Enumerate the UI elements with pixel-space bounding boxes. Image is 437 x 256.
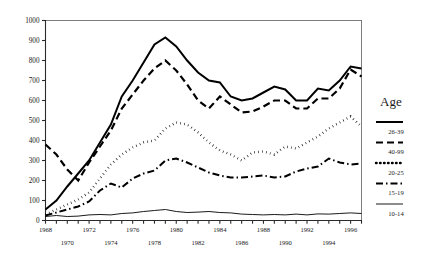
series-line-26-39 bbox=[46, 38, 362, 210]
y-tick-label: 800 bbox=[29, 57, 40, 65]
x-tick-label: 1978 bbox=[148, 239, 162, 246]
x-tick-label: 1986 bbox=[235, 239, 249, 246]
legend-label-26-39: 26-39 bbox=[388, 128, 404, 135]
y-tick-label: 300 bbox=[29, 157, 40, 165]
x-tick-label: 1976 bbox=[126, 226, 140, 233]
legend-label-20-25: 20-25 bbox=[388, 169, 404, 176]
series-line-20-25 bbox=[46, 117, 362, 215]
y-tick-label: 400 bbox=[29, 137, 40, 145]
legend-label-15-19: 15-19 bbox=[388, 189, 404, 196]
x-tick-label: 1994 bbox=[322, 239, 336, 246]
x-tick-label: 1984 bbox=[213, 226, 227, 233]
x-tick-label: 1988 bbox=[257, 226, 271, 233]
y-tick-label: 600 bbox=[29, 97, 40, 105]
y-tick-label: 700 bbox=[29, 77, 40, 85]
y-axis: 01002003004005006007008009001000 bbox=[25, 17, 45, 225]
x-tick-label: 1972 bbox=[82, 226, 95, 233]
x-axis: 1968197219761980198419881992199619701974… bbox=[39, 221, 362, 246]
legend-label-40-99: 40-99 bbox=[388, 148, 404, 155]
series-line-15-19 bbox=[46, 159, 362, 216]
y-tick-label: 500 bbox=[29, 117, 40, 125]
x-tick-label: 1996 bbox=[344, 226, 358, 233]
x-tick-label: 1992 bbox=[300, 226, 313, 233]
legend-label-10-14: 10-14 bbox=[388, 210, 404, 217]
y-tick-label: 100 bbox=[29, 197, 40, 205]
y-tick-label: 200 bbox=[29, 177, 40, 185]
series-line-40-99 bbox=[46, 61, 362, 181]
legend: Age 26-3940-9920-2515-1910-14 bbox=[376, 94, 404, 217]
x-tick-label: 1982 bbox=[191, 239, 204, 246]
line-chart: 01002003004005006007008009001000 1968197… bbox=[0, 0, 437, 256]
x-tick-label: 1980 bbox=[170, 226, 184, 233]
legend-title: Age bbox=[380, 94, 402, 109]
y-tick-label: 0 bbox=[36, 217, 40, 225]
x-tick-label: 1968 bbox=[39, 226, 53, 233]
y-tick-label: 900 bbox=[29, 37, 40, 45]
data-series-group bbox=[46, 38, 362, 217]
y-tick-label: 1000 bbox=[25, 17, 40, 25]
plot-frame bbox=[45, 21, 362, 221]
x-tick-label: 1970 bbox=[61, 239, 75, 246]
x-tick-label: 1990 bbox=[279, 239, 293, 246]
chart-page: 01002003004005006007008009001000 1968197… bbox=[0, 0, 437, 256]
x-tick-label: 1974 bbox=[104, 239, 118, 246]
series-line-10-14 bbox=[46, 210, 362, 217]
